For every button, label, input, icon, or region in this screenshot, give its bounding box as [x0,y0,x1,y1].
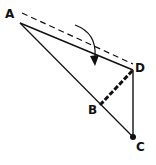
fold-diagram [0,0,156,165]
edge-a-d [20,23,133,70]
curved-arrow-icon [75,25,99,66]
label-d: D [135,62,145,74]
label-b: B [88,104,97,116]
edge-a-c [20,23,133,137]
label-a: A [5,8,14,20]
fold-line-b-d [100,70,133,105]
dashed-original-edge [22,13,133,64]
label-c: C [136,141,145,153]
